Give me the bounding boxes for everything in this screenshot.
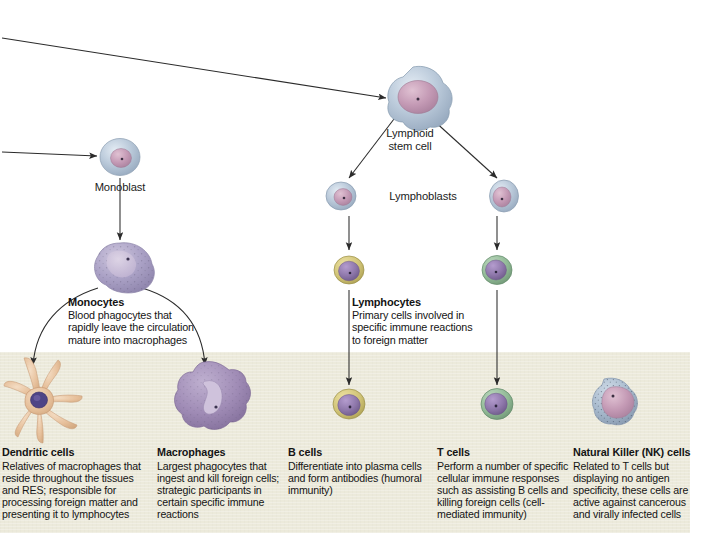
t-cell-lower-graphic	[481, 389, 513, 420]
lymphoid-stem-cell-graphic	[388, 66, 452, 130]
caption-nk-cells: Natural Killer (NK) cells Related to T c…	[573, 446, 713, 520]
monocyte-graphic	[95, 243, 155, 293]
dendritic-cell-graphic	[4, 358, 82, 443]
caption-macrophages: Macrophages Largest phagocytes that inge…	[157, 446, 287, 520]
label-monoblast: Monoblast	[82, 181, 158, 194]
mid-label-lymphocytes: Lymphocytes Primary cells involved in sp…	[352, 296, 522, 346]
monoblast-graphic	[100, 139, 140, 176]
label-lymphoblasts: Lymphoblasts	[382, 190, 464, 203]
b-cell-upper-graphic	[334, 256, 364, 284]
t-cell-upper-graphic	[482, 256, 512, 285]
label-lymphoid-stem-cell: Lymphoid stem cell	[380, 127, 440, 152]
mid-label-monocytes: Monocytes Blood phagocytes that rapidly …	[68, 296, 238, 346]
caption-b-cells: B cells Differentiate into plasma cells …	[288, 446, 440, 496]
b-cell-lower-graphic	[333, 389, 365, 419]
caption-t-cells: T cells Perform a number of specific cel…	[437, 446, 577, 520]
diagram-canvas: Lymphoid stem cell Monoblast Lymphoblast…	[0, 0, 722, 554]
nk-cell-graphic	[592, 378, 637, 425]
lymphoblast-right-graphic	[490, 180, 519, 212]
lymphoblast-left-graphic	[326, 182, 356, 210]
macrophage-graphic	[175, 362, 251, 430]
caption-dendritic-cells: Dendritic cells Relatives of macrophages…	[2, 446, 152, 520]
